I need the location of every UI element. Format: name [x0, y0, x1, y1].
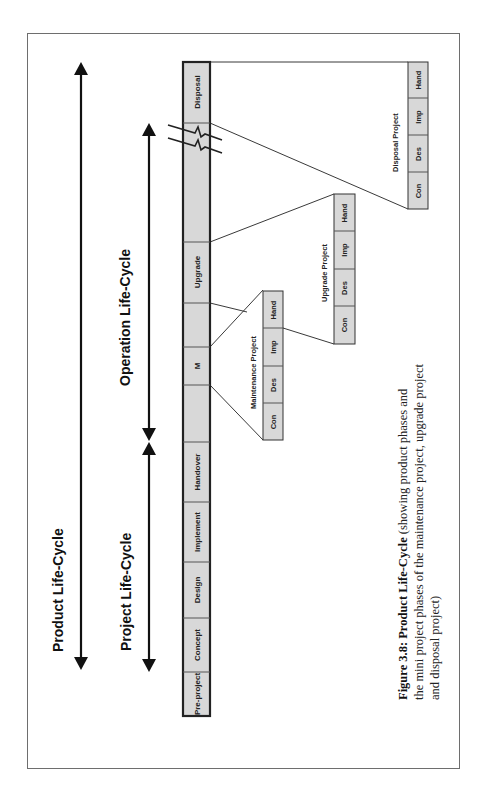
arrow-up-icon: [74, 62, 88, 75]
disposal-phase-des: Des: [414, 147, 423, 161]
caption-line-1: Figure 3.8: Product Life-Cycle (showing …: [396, 388, 410, 700]
maintenance-phase-imp: Imp: [269, 340, 278, 354]
figure-caption: Figure 3.8: Product Life-Cycle (showing …: [396, 363, 442, 700]
arrow-up-icon: [142, 123, 156, 136]
disposal-project-title: Disposal Project: [391, 113, 400, 172]
product-life-cycle-diagram: Product Life-Cycle Operation Life-Cycle …: [0, 0, 487, 797]
disposal-project: Con Des Imp Hand Disposal Project: [210, 62, 428, 209]
maintenance-project: Con Des Imp Hand Maintenance Project: [210, 290, 283, 440]
segment-pre-project: Pre-project: [193, 673, 202, 716]
caption-line-3: and disposal project): [428, 596, 442, 700]
maintenance-phase-hand: Hand: [269, 300, 278, 319]
disposal-phase-hand: Hand: [414, 70, 423, 89]
segment-concept: Concept: [193, 629, 202, 661]
arrow-down-icon: [142, 428, 156, 441]
maintenance-phase-con: Con: [269, 414, 278, 429]
project-life-cycle-label: Project Life-Cycle: [118, 533, 134, 651]
upgrade-phase-imp: Imp: [340, 243, 349, 257]
segment-maintenance: M: [193, 362, 202, 369]
disposal-phase-con: Con: [414, 183, 423, 198]
caption-line-2: the mini project phases of the maintenan…: [412, 363, 426, 700]
project-life-cycle-arrow: Project Life-Cycle: [118, 442, 156, 672]
caption-line-1-rest: (showing product phases and: [396, 388, 410, 537]
segment-upgrade: Upgrade: [193, 255, 202, 288]
disposal-phase-imp: Imp: [414, 110, 423, 124]
arrow-down-icon: [74, 657, 88, 670]
caption-title: Figure 3.8: Product Life-Cycle: [396, 537, 410, 700]
upgrade-phase-con: Con: [340, 317, 349, 332]
upgrade-project-title: Upgrade Project: [320, 244, 329, 302]
arrow-down-icon: [142, 659, 156, 672]
segment-design: Design: [193, 577, 202, 604]
arrow-up-icon: [142, 442, 156, 455]
upgrade-phase-hand: Hand: [340, 203, 349, 222]
product-life-cycle-arrow: Product Life-Cycle: [50, 62, 88, 670]
segment-disposal: Disposal: [193, 75, 202, 108]
segment-handover: Handover: [193, 454, 202, 491]
operation-life-cycle-arrow: Operation Life-Cycle: [117, 123, 156, 441]
upgrade-phase-des: Des: [340, 281, 349, 295]
maintenance-project-title: Maintenance Project: [249, 336, 258, 409]
maintenance-phase-des: Des: [269, 378, 278, 392]
segment-implement: Implement: [193, 512, 202, 552]
product-life-cycle-label: Product Life-Cycle: [50, 528, 66, 652]
operation-life-cycle-label: Operation Life-Cycle: [117, 249, 133, 386]
